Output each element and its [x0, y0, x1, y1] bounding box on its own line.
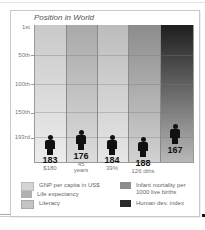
legend-swatch-gnp [21, 182, 34, 191]
ytick-150th: 150th [4, 109, 30, 115]
ytick-50th: 50th [4, 52, 30, 58]
value-life-expectancy-unit: years [66, 167, 96, 174]
rank-literacy: 184 [97, 155, 127, 165]
legend-gnp: GNP per capita in US$ [21, 182, 100, 191]
legend-label-gnp: GNP per capita in US$ [39, 182, 100, 189]
rank-infant-mortality: 188 [128, 158, 158, 168]
person-icon [45, 135, 55, 155]
person-icon [76, 130, 86, 150]
legend-literacy: Literacy [21, 200, 60, 209]
legend-label-hdi: Human dev. index [136, 200, 184, 207]
legend-swatch-infant [120, 182, 131, 189]
value-infant-mortality: 126 dths [128, 168, 158, 175]
legend-hdi: Human dev. index [120, 200, 184, 207]
top-rule [0, 2, 205, 3]
legend-swatch-hdi [120, 200, 131, 207]
legend-label-infant-line1: Infant mortality per [136, 182, 186, 189]
legend-swatch-literacy [21, 200, 34, 209]
legend-swatch-life [21, 191, 32, 198]
ytick-1st: 1st [4, 24, 30, 30]
person-icon [170, 124, 180, 144]
legend-label-infant-line2: 1000 live births [136, 189, 186, 196]
legend-label-literacy: Literacy [39, 200, 60, 207]
ytick-100th: 100th [4, 81, 30, 87]
gridline [35, 84, 193, 85]
person-icon [107, 135, 117, 155]
legend-label-life: Life expectancy [37, 191, 79, 198]
legend-infant-mortality: Infant mortality per 1000 live births [120, 182, 186, 196]
chart-title: Position in World [34, 13, 94, 22]
gridline [35, 112, 193, 113]
rank-gnp: 183 [35, 155, 65, 165]
legend-life-expectancy: Life expectancy [21, 191, 79, 198]
rank-life-expectancy: 176 [66, 151, 96, 161]
corner-marker [202, 214, 205, 217]
value-gnp: $180 [35, 165, 65, 172]
legend-label-infant: Infant mortality per 1000 live births [136, 182, 186, 196]
value-literacy: 39% [97, 165, 127, 172]
left-rule-2 [0, 216, 10, 217]
gridline [35, 55, 193, 56]
person-icon [138, 137, 148, 157]
rank-hdi: 167 [160, 145, 190, 155]
left-rule [0, 214, 10, 215]
ytick-193rd: 193rd [4, 134, 30, 140]
